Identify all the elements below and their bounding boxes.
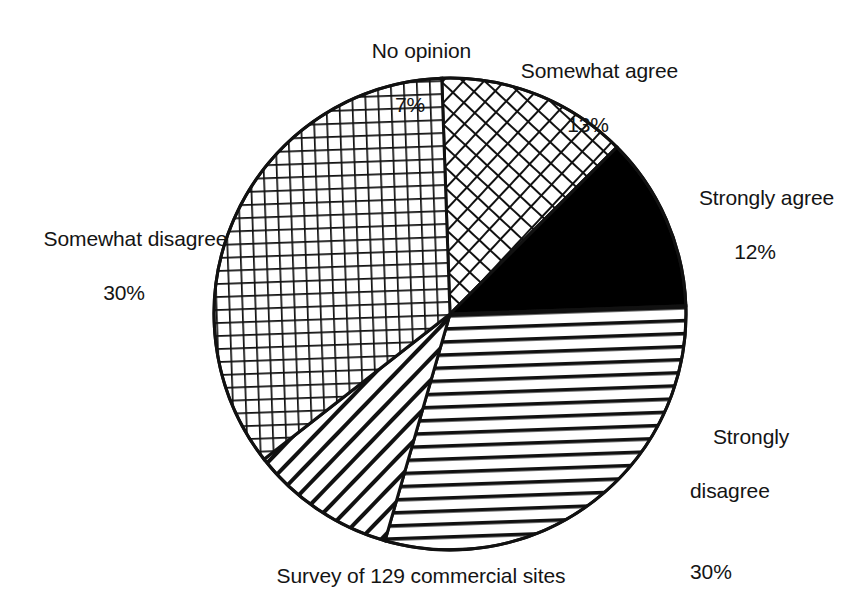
slice-label-no-opinion-percent: 7% xyxy=(330,91,490,118)
slice-label-strongly-agree-percent: 12% xyxy=(665,238,842,265)
slice-label-strongly-disagree: Strongly disagree 30% xyxy=(690,396,840,613)
slice-label-no-opinion: No opinion 7% xyxy=(330,10,490,172)
slice-label-somewhat-agree-name: Somewhat agree xyxy=(521,59,678,82)
chart-caption: Survey of 129 commercial sites xyxy=(226,562,616,589)
slice-label-strongly-agree-name: Strongly agree xyxy=(699,186,834,209)
slice-label-somewhat-agree-percent: 13% xyxy=(488,111,688,138)
slice-label-somewhat-disagree-percent: 30% xyxy=(14,279,234,306)
slice-label-strongly-disagree-percent: 30% xyxy=(690,558,840,585)
slice-label-somewhat-disagree: Somewhat disagree 30% xyxy=(14,198,234,360)
slice-label-somewhat-agree: Somewhat agree 13% xyxy=(488,30,688,192)
pie-chart: No opinion 7% Somewhat agree 13% Strongl… xyxy=(0,0,842,613)
slice-label-strongly-disagree-name-line2: disagree xyxy=(690,477,840,504)
slice-label-no-opinion-name: No opinion xyxy=(372,39,471,62)
slice-label-somewhat-disagree-name: Somewhat disagree xyxy=(44,227,228,250)
slice-label-strongly-agree: Strongly agree 12% xyxy=(665,157,842,319)
slice-label-strongly-disagree-name-line1: Strongly xyxy=(713,425,789,448)
